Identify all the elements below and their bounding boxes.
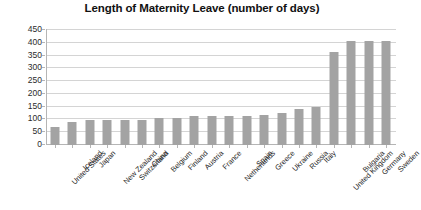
bar: [172, 118, 181, 145]
bars-layer: [46, 29, 396, 145]
bar: [103, 120, 112, 145]
bar-slot: [81, 29, 98, 145]
bar: [120, 120, 129, 145]
bar-slot: [203, 29, 220, 145]
bar: [295, 109, 304, 145]
bar: [312, 107, 321, 145]
y-axis-tick-label: 400: [28, 38, 42, 47]
bar: [50, 127, 59, 145]
bar: [190, 116, 199, 145]
bar: [329, 52, 338, 145]
y-axis-tick-label: 50: [33, 127, 42, 136]
y-axis-tick-label: 300: [28, 63, 42, 72]
bar: [155, 118, 164, 145]
bar-slot: [168, 29, 185, 145]
bar-slot: [378, 29, 395, 145]
bar: [277, 113, 286, 145]
bar: [225, 116, 234, 145]
bar: [68, 122, 77, 145]
bar: [382, 41, 391, 145]
x-axis-tick-label: Spain: [255, 149, 274, 168]
y-axis-tick-mark: [42, 93, 45, 94]
bar-slot: [186, 29, 203, 145]
bar-slot: [273, 29, 290, 145]
bar-slot: [343, 29, 360, 145]
y-axis-tick-label: 100: [28, 114, 42, 123]
x-axis-tick-label: France: [221, 149, 243, 171]
bar: [260, 115, 269, 145]
bar-slot: [255, 29, 272, 145]
y-axis-tick-mark: [42, 29, 45, 30]
bar: [242, 116, 251, 145]
y-axis-tick-mark: [42, 118, 45, 119]
bar: [364, 41, 373, 145]
bar-slot: [308, 29, 325, 145]
bar: [85, 120, 94, 145]
y-axis: 050100150200250300350400450: [0, 29, 42, 145]
bar-slot: [63, 29, 80, 145]
y-axis-tick-label: 200: [28, 89, 42, 98]
y-axis-tick-label: 450: [28, 25, 42, 34]
chart-title: Length of Maternity Leave (number of day…: [0, 2, 404, 14]
x-axis: United StatesIcelandJapanNew ZealandSwit…: [46, 148, 396, 210]
y-axis-tick-mark: [42, 42, 45, 43]
bar-slot: [98, 29, 115, 145]
y-axis-tick-label: 250: [28, 76, 42, 85]
bar-slot: [46, 29, 63, 145]
y-axis-tick-mark: [42, 55, 45, 56]
bar-slot: [133, 29, 150, 145]
bar-slot: [238, 29, 255, 145]
y-axis-tick-mark: [42, 131, 45, 132]
bar: [207, 116, 216, 145]
y-axis-tick-label: 150: [28, 101, 42, 110]
bar-slot: [221, 29, 238, 145]
bar-slot: [290, 29, 307, 145]
y-axis-tick-mark: [42, 144, 45, 145]
bar-slot: [116, 29, 133, 145]
bar: [347, 41, 356, 145]
y-axis-tick-mark: [42, 106, 45, 107]
bar-slot: [360, 29, 377, 145]
y-axis-tick-mark: [42, 67, 45, 68]
y-axis-tick-mark: [42, 80, 45, 81]
y-axis-tick-label: 350: [28, 50, 42, 59]
bar-slot: [151, 29, 168, 145]
bar: [137, 120, 146, 145]
bar-slot: [325, 29, 342, 145]
